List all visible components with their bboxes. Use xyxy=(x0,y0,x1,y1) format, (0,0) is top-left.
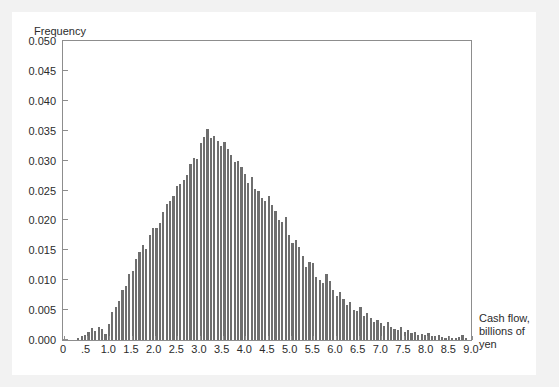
histogram-bar xyxy=(302,256,304,340)
x-tick xyxy=(132,336,133,340)
y-tick xyxy=(63,279,68,280)
y-tick xyxy=(63,130,68,131)
histogram-bar xyxy=(455,338,457,340)
histogram-bar xyxy=(104,334,106,340)
histogram-bar xyxy=(315,277,317,340)
histogram-bar xyxy=(220,146,222,340)
x-tick xyxy=(177,336,178,340)
histogram-bar xyxy=(138,252,140,340)
histogram-bar xyxy=(407,330,409,340)
x-tick xyxy=(427,336,428,340)
y-tick-label: 0.050 xyxy=(14,35,56,47)
histogram-bar xyxy=(278,220,280,340)
histogram-bar xyxy=(319,280,321,340)
histogram-bar xyxy=(98,327,100,340)
histogram-bar xyxy=(325,274,327,340)
x-tick xyxy=(449,336,450,340)
histogram-bar xyxy=(370,318,372,340)
histogram-bar xyxy=(94,331,96,340)
histogram-bar xyxy=(203,137,205,340)
y-tick xyxy=(63,70,68,71)
histogram-bar xyxy=(169,201,171,340)
histogram-bar xyxy=(383,326,385,340)
histogram-bar xyxy=(434,336,436,340)
histogram-bar xyxy=(254,189,256,340)
y-tick xyxy=(63,309,68,310)
histogram-bar xyxy=(359,307,361,340)
histogram-bar xyxy=(342,299,344,340)
histogram-bar xyxy=(308,262,310,340)
histogram-bar xyxy=(274,211,276,340)
histogram-bar xyxy=(271,205,273,340)
histogram-bar xyxy=(193,158,195,340)
histogram-bar xyxy=(329,281,331,340)
x-tick-label: 9.0 xyxy=(456,343,486,355)
histogram-bars xyxy=(63,41,471,340)
histogram-bar xyxy=(295,240,297,340)
histogram-bar xyxy=(101,329,103,340)
histogram-bar xyxy=(285,217,287,340)
x-tick xyxy=(64,336,65,340)
histogram-bar xyxy=(149,235,151,340)
y-tick-label: 0.045 xyxy=(14,65,56,77)
histogram-plot: Frequency Cash flow,billions ofyen Year … xyxy=(12,12,536,375)
x-tick xyxy=(245,336,246,340)
y-tick-label: 0.025 xyxy=(14,185,56,197)
y-tick xyxy=(63,40,68,41)
histogram-bar xyxy=(332,290,334,340)
histogram-bar xyxy=(152,228,154,340)
histogram-bar xyxy=(186,175,188,340)
y-tick-label: 0.035 xyxy=(14,125,56,137)
histogram-bar xyxy=(421,334,423,340)
histogram-bar xyxy=(312,263,314,340)
histogram-bar xyxy=(363,316,365,340)
histogram-bar xyxy=(465,338,467,340)
y-tick-label: 0.020 xyxy=(14,214,56,226)
histogram-bar xyxy=(223,142,225,340)
y-tick xyxy=(63,249,68,250)
histogram-bar xyxy=(393,329,395,340)
histogram-bar xyxy=(257,191,259,341)
chart-card: Frequency Cash flow,billions ofyen Year … xyxy=(12,12,536,375)
histogram-bar xyxy=(227,149,229,340)
histogram-bar xyxy=(118,301,120,340)
histogram-bar xyxy=(336,296,338,340)
histogram-bar xyxy=(189,164,191,340)
histogram-bar xyxy=(77,338,79,340)
histogram-bar xyxy=(234,162,236,340)
y-tick xyxy=(63,100,68,101)
histogram-bar xyxy=(196,159,198,340)
histogram-bar xyxy=(339,292,341,340)
histogram-bar xyxy=(291,243,293,340)
y-tick xyxy=(63,219,68,220)
histogram-bar xyxy=(213,136,215,340)
histogram-bar xyxy=(281,222,283,340)
histogram-bar xyxy=(179,184,181,340)
histogram-bar xyxy=(397,330,399,340)
histogram-bar xyxy=(346,305,348,340)
histogram-bar xyxy=(349,302,351,340)
plot-frame xyxy=(62,40,472,341)
histogram-bar xyxy=(244,174,246,340)
histogram-bar xyxy=(264,201,266,340)
histogram-bar xyxy=(461,335,463,340)
histogram-bar xyxy=(288,235,290,340)
histogram-bar xyxy=(373,322,375,340)
x-tick xyxy=(313,336,314,340)
x-tick xyxy=(336,336,337,340)
histogram-bar xyxy=(155,228,157,340)
histogram-bar xyxy=(135,259,137,340)
y-tick xyxy=(63,160,68,161)
histogram-bar xyxy=(261,198,263,340)
histogram-bar xyxy=(125,286,127,340)
x-tick xyxy=(87,336,88,340)
x-tick xyxy=(381,336,382,340)
histogram-bar xyxy=(298,247,300,340)
histogram-bar xyxy=(400,327,402,340)
histogram-bar xyxy=(159,223,161,340)
histogram-bar xyxy=(81,336,83,340)
x-tick xyxy=(200,336,201,340)
x-tick xyxy=(109,336,110,340)
histogram-bar xyxy=(240,167,242,340)
x-tick xyxy=(268,336,269,340)
